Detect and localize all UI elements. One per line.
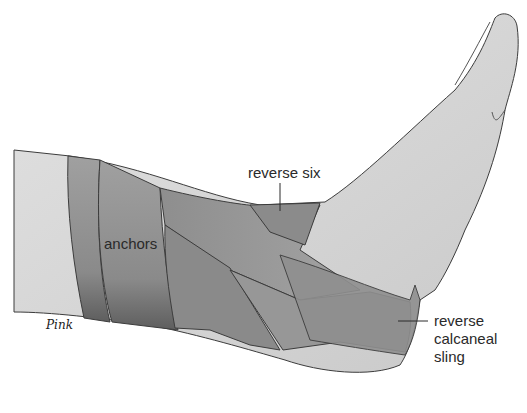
label-reverse-calcaneal-sling-3: sling [434, 348, 465, 365]
label-reverse-calcaneal-sling-2: calcaneal [434, 330, 497, 347]
artist-signature: Pink [46, 318, 73, 332]
label-reverse-calcaneal-sling-1: reverse [434, 312, 484, 329]
label-anchors: anchors [104, 235, 157, 252]
label-reverse-six: reverse six [248, 164, 321, 181]
ankle-taping-diagram: reverse six anchors reverse calcaneal sl… [0, 0, 527, 413]
